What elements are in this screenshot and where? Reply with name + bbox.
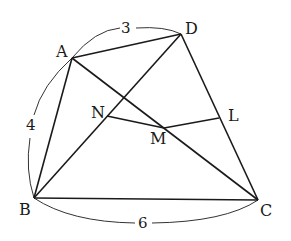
segment-ad — [72, 34, 181, 58]
segment-dc — [181, 34, 258, 200]
arc-ad-right — [136, 28, 181, 34]
point-label-d: D — [185, 21, 198, 37]
point-label-c: C — [260, 203, 272, 219]
segment-ml — [164, 118, 219, 128]
point-label-m: M — [150, 131, 166, 147]
segment-bc — [34, 198, 258, 200]
length-bc: 6 — [137, 216, 149, 231]
geometry-diagram: A D B C N M L 3 4 6 — [0, 0, 291, 241]
diagram-svg — [0, 0, 291, 241]
point-label-n: N — [91, 105, 105, 121]
arc-ab-bottom — [28, 138, 34, 198]
arc-ab — [34, 58, 72, 115]
arc-bc-right — [152, 200, 258, 223]
length-ad: 3 — [120, 21, 132, 36]
point-label-b: B — [19, 202, 31, 218]
arc-bc — [34, 198, 135, 223]
point-label-a: A — [56, 44, 68, 60]
length-ab: 4 — [25, 118, 37, 133]
point-label-l: L — [228, 108, 239, 124]
